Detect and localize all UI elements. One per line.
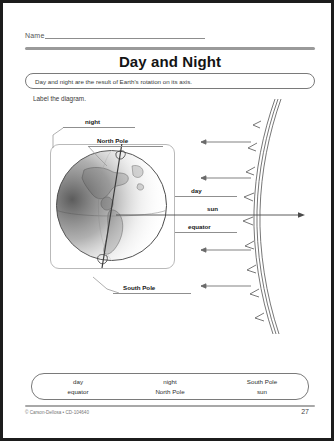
- leader-line-north-pole: [85, 146, 111, 168]
- label-day: day: [189, 187, 204, 194]
- label-line-night[interactable]: [63, 127, 135, 128]
- name-field-row[interactable]: Name: [25, 27, 205, 39]
- leader-line-night: [47, 127, 67, 149]
- directions-text: Label the diagram.: [33, 95, 86, 102]
- label-night: night: [83, 118, 102, 125]
- page-number: 27: [301, 408, 309, 415]
- label-north-pole: North Pole: [95, 137, 130, 144]
- worksheet-page: Name Day and Night Day and night are the…: [0, 0, 334, 441]
- statement-box: Day and night are the result of Earth's …: [25, 73, 315, 89]
- word-bank-word: night: [124, 377, 216, 387]
- label-line-day[interactable]: [175, 196, 237, 197]
- word-bank-column: South Pole sun: [216, 377, 308, 396]
- title-divider-rule: [25, 47, 315, 50]
- label-line-equator[interactable]: [175, 232, 237, 233]
- footer-divider-rule: [25, 405, 315, 407]
- copyright-text: © Carson-Dellosa • CD-104640: [25, 410, 89, 415]
- label-line-south-pole[interactable]: [113, 293, 191, 294]
- word-bank: day equator night North Pole South Pole …: [31, 373, 309, 400]
- worksheet-sheet: Name Day and Night Day and night are the…: [3, 3, 331, 438]
- name-write-line[interactable]: [45, 31, 205, 39]
- word-bank-word: North Pole: [124, 387, 216, 397]
- word-bank-column: night North Pole: [124, 377, 216, 396]
- word-bank-word: equator: [32, 387, 124, 397]
- word-bank-word: sun: [216, 387, 308, 397]
- sunlight-ray-arrow-icon: [193, 103, 273, 303]
- diagram-area: night North Pole day sun equator South P…: [3, 103, 334, 333]
- name-label: Name: [25, 32, 44, 39]
- word-bank-column: day equator: [32, 377, 124, 396]
- page-title: Day and Night: [25, 53, 315, 70]
- leader-line-south-pole: [93, 275, 121, 295]
- statement-text: Day and night are the result of Earth's …: [35, 78, 192, 85]
- word-bank-word: South Pole: [216, 377, 308, 387]
- earth-globe-icon: [50, 144, 173, 267]
- label-equator: equator: [186, 223, 213, 230]
- word-bank-word: day: [32, 377, 124, 387]
- label-sun: sun: [205, 205, 220, 212]
- label-south-pole: South Pole: [121, 284, 157, 291]
